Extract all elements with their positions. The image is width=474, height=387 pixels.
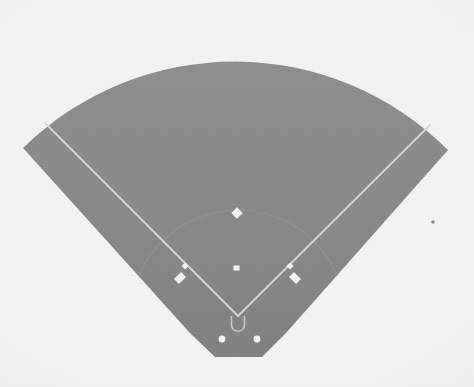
baseball-field-diagram [0,0,474,387]
figure-page [0,0,474,387]
artifacts-group [431,220,435,224]
scan-speck [431,220,435,224]
left-on-deck-circle [219,336,226,343]
pitchers-rubber [234,266,240,271]
right-on-deck-circle [254,336,261,343]
